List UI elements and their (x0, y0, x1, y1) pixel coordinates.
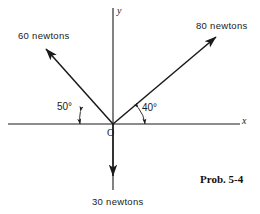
angle-arc-50 (80, 112, 81, 125)
y-axis-label: y (117, 5, 121, 16)
vector-label-60-newtons: 60 newtons (18, 30, 70, 41)
x-axis-label: x (242, 115, 246, 126)
figure-caption: Prob. 5-4 (200, 173, 243, 185)
vector-label-30-newtons: 30 newtons (92, 196, 144, 207)
force-vector-diagram: 60 newtons 80 newtons 30 newtons 50° 40°… (0, 0, 260, 214)
angle-label-40: 40° (142, 102, 157, 113)
angle-label-50: 50° (57, 101, 72, 112)
origin-label: O (107, 127, 114, 138)
vector-label-80-newtons: 80 newtons (196, 20, 248, 31)
vector-60-newtons (46, 49, 113, 124)
vector-80-newtons (113, 37, 216, 124)
